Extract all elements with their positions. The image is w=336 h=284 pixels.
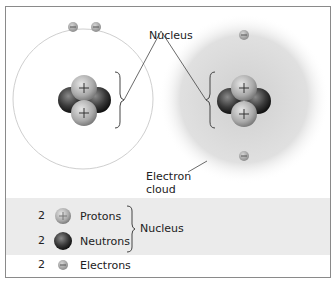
electron-icon xyxy=(68,22,78,32)
proton-icon xyxy=(55,208,71,224)
neutron-count: 2 xyxy=(38,234,45,247)
electron-icon xyxy=(58,260,68,270)
electron-icon xyxy=(91,22,101,32)
electron-label: Electrons xyxy=(80,259,131,272)
atom-diagram xyxy=(6,7,330,277)
nucleus-label: Nucleus xyxy=(149,29,193,42)
diagram-frame: Nucleus Electron cloud 2 Protons 2 Neutr… xyxy=(5,6,331,278)
electron-icon xyxy=(239,30,249,40)
neutron-icon xyxy=(54,232,72,250)
electron-icon xyxy=(239,151,249,161)
proton-label: Protons xyxy=(80,210,121,223)
proton-count: 2 xyxy=(38,209,45,222)
electron-count: 2 xyxy=(38,258,45,271)
electron-cloud-label-line1: Electron xyxy=(146,170,191,183)
nucleus-left xyxy=(58,75,111,126)
nucleus-bracket-left xyxy=(115,72,124,128)
neutron-label: Neutrons xyxy=(80,235,130,248)
legend-nucleus-label: Nucleus xyxy=(140,222,184,235)
electron-cloud-label-line2: cloud xyxy=(146,183,176,196)
